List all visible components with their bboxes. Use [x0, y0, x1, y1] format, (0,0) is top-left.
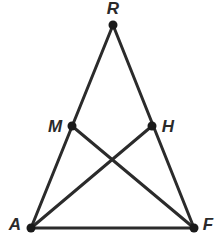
label-f: F [203, 215, 214, 233]
label-h: H [162, 117, 175, 136]
point-a [27, 224, 36, 233]
point-h [148, 122, 157, 131]
label-m: M [48, 117, 63, 136]
label-r: R [107, 0, 120, 18]
label-a: A [8, 215, 21, 233]
point-r [109, 21, 118, 30]
triangle-diagram: RMHAF [0, 0, 220, 233]
point-f [190, 224, 199, 233]
point-m [68, 122, 77, 131]
